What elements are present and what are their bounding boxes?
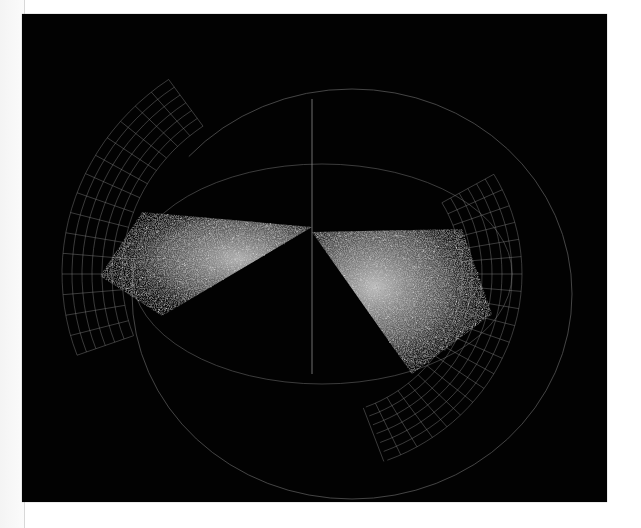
point-cloud-wedges: [100, 212, 492, 374]
galaxy-survey-render: [22, 14, 607, 502]
right-wedge: [312, 229, 492, 374]
visualization-panel[interactable]: [22, 14, 607, 502]
